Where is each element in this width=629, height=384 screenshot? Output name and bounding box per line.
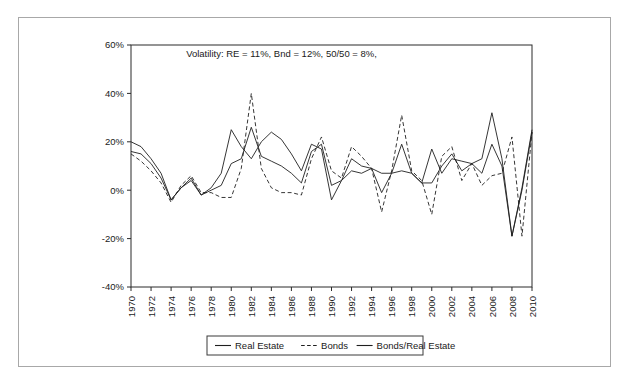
legend-label-0: Real Estate [235, 340, 284, 351]
x-tick-label: 1974 [166, 296, 177, 317]
x-tick-label: 1996 [386, 296, 397, 317]
x-tick-label: 1986 [286, 296, 297, 317]
x-tick-label: 1990 [326, 296, 337, 317]
y-tick-label: 60% [105, 39, 125, 50]
x-tick-label: 2006 [487, 296, 498, 317]
x-tick-label: 1972 [146, 296, 157, 317]
legend-label-1: Bonds [321, 340, 348, 351]
x-tick-label: 1988 [306, 296, 317, 317]
chart-title: Volatility: RE = 11%, Bnd = 12%, 50/50 =… [186, 48, 377, 59]
x-tick-label: 1994 [366, 296, 377, 317]
y-tick-label: -40% [102, 281, 125, 292]
figure-container: 60%40%20%0%-20%-40%197019721974197619781… [0, 0, 629, 384]
legend-label-2: Bonds/Real Estate [377, 340, 456, 351]
y-tick-label: 0% [110, 185, 124, 196]
x-tick-label: 2010 [527, 296, 538, 317]
y-tick-label: -20% [102, 233, 125, 244]
x-tick-label: 2002 [446, 296, 457, 317]
x-tick-label: 1982 [246, 296, 257, 317]
x-tick-label: 1980 [226, 296, 237, 317]
y-tick-label: 40% [105, 88, 125, 99]
x-tick-label: 1970 [126, 296, 137, 317]
x-tick-label: 1984 [266, 296, 277, 317]
x-tick-label: 1976 [186, 296, 197, 317]
x-tick-label: 2000 [426, 296, 437, 317]
x-tick-label: 1992 [346, 296, 357, 317]
y-tick-label: 20% [105, 136, 125, 147]
x-tick-label: 1998 [406, 296, 417, 317]
plot-area-box [131, 45, 532, 287]
x-tick-label: 2004 [466, 296, 477, 317]
chart-canvas: 60%40%20%0%-20%-40%197019721974197619781… [0, 0, 629, 384]
x-tick-label: 2008 [507, 296, 518, 317]
x-tick-label: 1978 [206, 296, 217, 317]
